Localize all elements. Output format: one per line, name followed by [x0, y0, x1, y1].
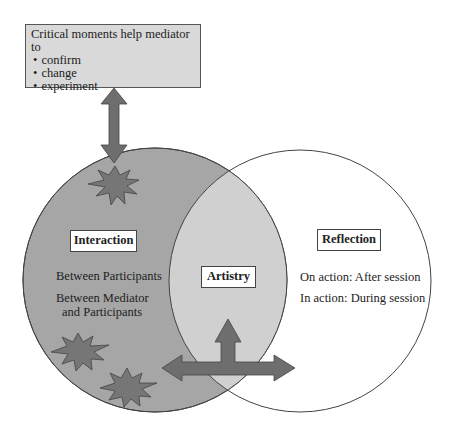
reflection-label: Reflection	[317, 229, 381, 251]
callout-title: Critical moments help mediator to	[31, 28, 195, 54]
interaction-line-participants: Between Participants	[56, 269, 162, 283]
reflection-line-on-action: On action: After session	[300, 270, 420, 284]
artistry-label: Artistry	[201, 266, 256, 288]
callout-list: confirm change experiment	[31, 54, 195, 93]
interaction-line-mediator: Between Mediator	[56, 291, 149, 305]
interaction-label: Interaction	[70, 230, 137, 252]
critical-moments-callout: Critical moments help mediator to confir…	[25, 24, 201, 88]
interaction-line-and-participants: and Participants	[62, 305, 142, 319]
reflection-line-in-action: In action: During session	[300, 291, 425, 305]
callout-item-experiment: experiment	[33, 80, 195, 93]
